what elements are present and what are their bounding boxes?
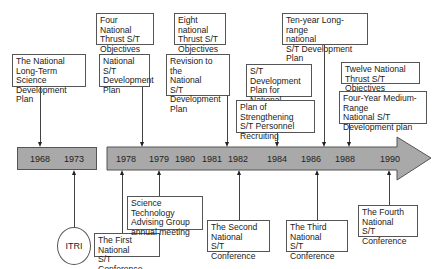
year-label: 1980: [175, 154, 195, 164]
year-label: 1988: [335, 154, 355, 164]
year-label: 1986: [301, 154, 321, 164]
arrow-down-icon: [38, 142, 42, 147]
event-box-advising-group-meeting: Science Technology Advising Group annual…: [127, 196, 203, 230]
connector-line: [122, 175, 123, 233]
event-box-twelve-thrust-objectives: Twelve National Thrust S/T Objectives: [341, 62, 420, 84]
connector-line: [227, 96, 228, 142]
arrow-down-icon: [322, 142, 326, 147]
connector-line: [74, 175, 75, 227]
arrow-down-icon: [347, 142, 351, 147]
event-box-third-conference: The Third National S/T Conference: [286, 220, 348, 252]
connector-line: [40, 87, 41, 142]
event-box-personnel-recruiting: Plan of Strengthening S/T Personnel Recr…: [236, 100, 315, 133]
year-label: 1978: [116, 154, 136, 164]
event-box-four-year-plan: Four-Year Medium-Range National S/T Deve…: [339, 91, 427, 124]
connector-line: [239, 175, 240, 220]
event-box-four-thrust-objectives: Four National Thrust S/T Objectives: [96, 13, 154, 45]
event-box-long-term-science-plan: The National Long-Term Science Developme…: [12, 54, 86, 87]
year-label: 1973: [64, 154, 84, 164]
year-label: 1990: [380, 154, 400, 164]
connector-line: [389, 175, 390, 205]
year-label: 1979: [149, 154, 169, 164]
event-box-fourth-conference: The Fourth National S/T Conference: [358, 205, 418, 237]
event-box-revision-st-plan: Revision to the National S/T Development…: [166, 54, 230, 96]
year-label: 1981: [202, 154, 222, 164]
connector-line: [324, 45, 325, 142]
event-circle-itri: ITRI: [57, 227, 91, 265]
connector-line: [317, 175, 318, 220]
event-box-ten-year-plan: Ten-year Long-range national S/T Develop…: [282, 13, 368, 45]
arrow-down-icon: [275, 142, 279, 147]
event-box-second-conference: The Second National S/T Conference: [207, 220, 270, 252]
event-box-eight-thrust-objectives: Eight national Thrust S/T Objectives: [174, 13, 226, 45]
connector-line: [349, 124, 350, 142]
event-box-defense-plan: S/T Development Plan for National Defens…: [246, 64, 312, 97]
connector-line: [277, 133, 278, 142]
arrow-down-icon: [140, 142, 144, 147]
connector-line: [159, 175, 160, 196]
year-label: 1982: [228, 154, 248, 164]
year-label: 1968: [30, 154, 50, 164]
event-box-national-st-plan: National S/T Development Plan: [99, 54, 150, 87]
connector-line: [142, 87, 143, 142]
arrow-down-icon: [225, 142, 229, 147]
year-label: 1984: [267, 154, 287, 164]
